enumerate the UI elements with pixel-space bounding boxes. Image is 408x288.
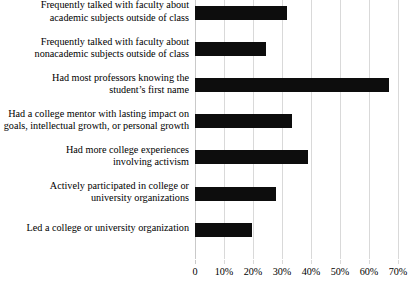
x-tick-label: 20% — [244, 265, 263, 278]
bar — [195, 223, 252, 237]
gridline-70pct — [398, 0, 399, 264]
gridline-20pct — [253, 0, 254, 264]
category-label-line: Had more college experiences — [0, 144, 189, 157]
category-label-line: Actively participated in college or — [0, 180, 189, 193]
bar — [195, 187, 276, 201]
category-label: Had more college experiencesinvolving ac… — [0, 144, 189, 169]
gridline-40pct — [311, 0, 312, 264]
gridline-60pct — [369, 0, 370, 264]
category-label-line: nonacademic subjects outside of class — [0, 48, 189, 61]
category-label: Had most professors knowing thestudent’s… — [0, 72, 189, 97]
x-tick-label: 70% — [389, 265, 408, 278]
x-axis-line — [195, 259, 400, 260]
category-label-line: Frequently talked with faculty about — [0, 36, 189, 49]
x-tick-label: 10% — [215, 265, 234, 278]
gridline-30pct — [282, 0, 283, 264]
category-label-line: student’s first name — [0, 84, 189, 97]
plot-area — [195, 0, 400, 259]
category-label-line: academic subjects outside of class — [0, 12, 189, 25]
bar — [195, 6, 287, 20]
bar — [195, 114, 292, 128]
x-tick-label: 40% — [302, 265, 321, 278]
x-tick-label: 0 — [192, 265, 197, 278]
x-tick-label: 30% — [273, 265, 292, 278]
category-label-line: involving activism — [0, 156, 189, 169]
bar — [195, 150, 308, 164]
bar-chart: Frequently talked with faculty aboutacad… — [0, 0, 408, 288]
x-axis-tick-labels: 010%20%30%40%50%60%70% — [0, 265, 408, 281]
category-label: Had a college mentor with lasting impact… — [0, 108, 189, 133]
category-label: Led a college or university organization — [0, 222, 189, 235]
category-label: Frequently talked with faculty aboutacad… — [0, 0, 189, 25]
bar — [195, 42, 266, 56]
category-label-line: Led a college or university organization — [0, 222, 189, 235]
gridline-50pct — [340, 0, 341, 264]
x-tick-label: 60% — [360, 265, 379, 278]
category-label-line: goals, intellectual growth, or personal … — [0, 120, 189, 133]
category-label-line: Had a college mentor with lasting impact… — [0, 108, 189, 121]
category-label-line: Frequently talked with faculty about — [0, 0, 189, 12]
category-label: Actively participated in college orunive… — [0, 180, 189, 205]
category-label-line: Had most professors knowing the — [0, 72, 189, 85]
category-label: Frequently talked with faculty aboutnona… — [0, 36, 189, 61]
category-label-line: university organizations — [0, 192, 189, 205]
category-label-column: Frequently talked with faculty aboutacad… — [0, 0, 192, 262]
x-tick-label: 50% — [331, 265, 350, 278]
bar — [195, 78, 389, 92]
